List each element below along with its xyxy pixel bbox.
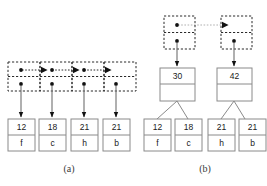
tree-edge-0-right [177,101,188,119]
panel-a-down-arrows [21,85,116,117]
leaf-value: h [219,138,224,148]
panel-a-leaf-box-1: 18 c [39,119,66,151]
tree-edge-0-left [157,101,177,119]
leaf-key: 18 [184,122,194,132]
leaf-key: 21 [217,122,227,132]
pointer-node-0 [8,62,40,91]
panel-b: 30 42 12 f [144,16,266,175]
pointer-node-3-inbound-arrowhead [105,67,112,73]
leaf-key: 21 [80,122,90,132]
panel-a-caption: (a) [63,163,74,175]
leaf-value: b [114,138,119,148]
internal-node-1: 42 [217,68,252,101]
pointer-node-3 [104,62,136,91]
leaf-key: 12 [153,122,163,132]
internal-node-0: 30 [160,68,195,101]
leaf-value: b [250,138,255,148]
pointer-node-1-inbound-arrowhead [41,67,48,73]
tree-edge-1-left [221,101,234,119]
pointer-node-2 [72,62,104,91]
panel-a-leaf-box-2: 21 h [71,119,98,151]
leaf-key: 12 [17,122,27,132]
pointer-node-0-top-dot [19,68,23,72]
panel-b-pointer-node-0 [164,16,195,49]
pointer-node-1 [40,62,72,91]
pointer-node-2-top-dot [82,68,86,72]
panel-a: 12 f 18 c 21 h 21 b (a) [8,62,136,175]
internal-node-key: 30 [173,71,183,81]
panel-a-leaf-box-0: 12 f [8,119,35,151]
panel-b-leaf-box-3: 21 b [239,119,266,151]
leaf-value: h [82,138,87,148]
panel-b-leaf-box-0: 12 f [144,119,171,151]
data-structure-diagram: 12 f 18 c 21 h 21 b (a) [0,0,267,186]
internal-node-key: 42 [230,71,240,81]
pointer-node-1-top-dot [50,68,54,72]
leaf-key: 21 [112,122,122,132]
leaf-key: 18 [48,122,58,132]
panel-b-caption: (b) [199,163,211,175]
tree-edge-1-right [234,101,245,119]
panel-b-pointer-node-1 [221,16,252,49]
pointer-node-2-inbound-arrowhead [73,67,80,73]
panel-b-leaf-box-2: 21 h [208,119,235,151]
pointer-node-inbound-arrowhead [222,22,229,28]
figure-root: 12 f 18 c 21 h 21 b (a) [0,0,267,186]
panel-a-leaf-box-3: 21 b [103,119,130,151]
panel-b-tree-edges [157,101,245,119]
pointer-node-top-dot [175,23,179,27]
panel-b-leaf-box-1: 18 c [175,119,202,151]
leaf-key: 21 [248,122,258,132]
